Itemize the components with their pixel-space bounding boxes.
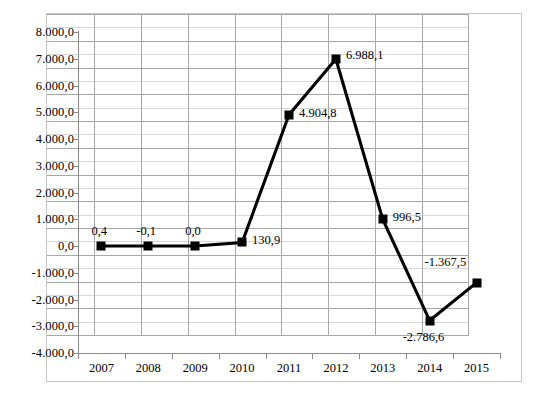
y-axis-tick-label: 3.000,0: [2, 160, 74, 173]
data-point-marker: [425, 316, 434, 325]
x-axis-tick-mark: [312, 354, 313, 359]
gridline-horizontal-minor: [47, 268, 469, 269]
y-axis-tick-label: 5.000,0: [2, 106, 74, 119]
gridline-vertical: [94, 14, 95, 335]
y-axis-tick-mark: [73, 273, 78, 274]
data-point-marker: [331, 55, 340, 64]
y-axis-tick-mark: [73, 219, 78, 220]
chart-gridlines: [47, 14, 521, 381]
y-axis-tick-mark: [73, 166, 78, 167]
y-axis-tick-label: -1.000,0: [2, 267, 74, 280]
gridline-horizontal-major: [47, 175, 469, 176]
x-axis-tick-label: 2015: [447, 362, 507, 375]
gridline-horizontal-minor: [47, 108, 469, 109]
x-axis-tick-mark: [500, 354, 501, 359]
gridline-vertical: [188, 14, 189, 335]
data-point-label: 0,4: [91, 225, 107, 238]
x-axis-tick-mark: [125, 354, 126, 359]
gridline-vertical: [375, 14, 376, 335]
y-axis-tick-label: 4.000,0: [2, 133, 74, 146]
x-axis-line: [78, 353, 501, 354]
data-point-marker: [285, 110, 294, 119]
data-point-label: -0,1: [136, 225, 156, 238]
data-point-marker: [144, 242, 153, 251]
data-point-marker: [238, 238, 247, 247]
gridline-horizontal-major: [47, 255, 469, 256]
gridline-horizontal-major: [47, 282, 469, 283]
gridline-horizontal-major: [47, 94, 469, 95]
x-axis-tick-mark: [78, 354, 79, 359]
gridline-horizontal-major: [47, 14, 469, 15]
gridline-horizontal-minor: [47, 81, 469, 82]
chart-frame: [46, 13, 522, 382]
gridline-vertical: [281, 14, 282, 335]
data-point-label: 6.988,1: [346, 49, 384, 62]
data-point-label: -1.367,5: [425, 256, 467, 269]
data-point-label: 130,9: [252, 234, 280, 247]
y-axis-tick-label: 7.000,0: [2, 53, 74, 66]
gridline-horizontal-minor: [47, 188, 469, 189]
y-axis-tick-label: 2.000,0: [2, 187, 74, 200]
y-axis-tick-mark: [73, 86, 78, 87]
data-point-marker: [378, 215, 387, 224]
y-axis-tick-label: 1.000,0: [2, 213, 74, 226]
gridline-horizontal-major: [47, 148, 469, 149]
gridline-horizontal-minor: [47, 161, 469, 162]
gridline-vertical: [422, 14, 423, 335]
y-axis-tick-label: 0,0: [2, 240, 74, 253]
gridline-vertical: [468, 14, 469, 335]
data-point-label: 0,0: [185, 225, 201, 238]
gridline-vertical: [235, 14, 236, 335]
y-axis-tick-label: -4.000,0: [2, 347, 74, 360]
gridline-horizontal-major: [47, 121, 469, 122]
x-axis-tick-mark: [172, 354, 173, 359]
y-axis-tick-label: -3.000,0: [2, 320, 74, 333]
gridline-vertical: [141, 14, 142, 335]
gridline-horizontal-major: [47, 228, 469, 229]
y-axis-tick-mark: [73, 112, 78, 113]
y-axis-tick-label: -2.000,0: [2, 294, 74, 307]
data-point-label: 4.904,8: [299, 107, 337, 120]
data-point-marker: [191, 242, 200, 251]
x-axis-tick-mark: [219, 354, 220, 359]
gridline-horizontal-minor: [47, 322, 469, 323]
y-axis-tick-mark: [73, 59, 78, 60]
data-point-label: 996,5: [393, 211, 421, 224]
gridline-horizontal-major: [47, 201, 469, 202]
y-axis-tick-mark: [73, 193, 78, 194]
gridline-horizontal-major: [47, 41, 469, 42]
gridline-horizontal-minor: [47, 295, 469, 296]
y-axis-tick-mark: [73, 246, 78, 247]
y-axis-tick-label: 8.000,0: [2, 26, 74, 39]
gridline-horizontal-major: [47, 308, 469, 309]
y-axis-tick-label: 6.000,0: [2, 80, 74, 93]
gridline-vertical: [328, 14, 329, 335]
cropped-caption: [0, 395, 540, 409]
y-axis-line: [78, 31, 79, 354]
x-axis-tick-mark: [453, 354, 454, 359]
gridline-horizontal-major: [47, 68, 469, 69]
x-axis-tick-mark: [359, 354, 360, 359]
x-axis-tick-mark: [266, 354, 267, 359]
gridline-horizontal-minor: [47, 54, 469, 55]
y-axis-tick-mark: [73, 300, 78, 301]
y-axis-tick-mark: [73, 139, 78, 140]
y-axis-tick-mark: [73, 326, 78, 327]
x-axis-tick-mark: [406, 354, 407, 359]
gridline-horizontal-minor: [47, 134, 469, 135]
y-axis-tick-labels: 8.000,07.000,06.000,05.000,04.000,03.000…: [0, 0, 74, 409]
data-point-marker: [472, 278, 481, 287]
y-axis-tick-mark: [73, 32, 78, 33]
data-point-label: -2.786,6: [403, 331, 445, 344]
gridline-horizontal-minor: [47, 27, 469, 28]
data-point-marker: [97, 241, 106, 250]
